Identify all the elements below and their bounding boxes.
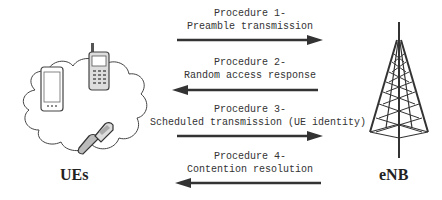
feature-phone-icon [88,42,110,92]
arrow-right-1 [177,35,323,45]
procedure-2-title: Procedure 2- [150,56,350,69]
procedure-4-description: Contention resolution [150,163,350,176]
procedure-1-text: Procedure 1- Preamble transmission [150,7,350,33]
random-access-diagram: UEs eNB Procedure 1- Preamble transmissi… [0,0,442,200]
cell-tower-icon [364,20,434,160]
procedure-4-title: Procedure 4- [150,150,350,163]
arrow-left-4 [175,178,321,188]
procedure-4-text: Procedure 4- Contention resolution [150,150,350,176]
procedure-2-text: Procedure 2- Random access response [150,56,350,82]
arrow-right-3 [177,131,323,141]
procedure-1-description: Preamble transmission [150,20,350,33]
procedure-3-description: Scheduled transmission (UE identity) [150,116,350,129]
procedure-3-text: Procedure 3- Scheduled transmission (UE … [150,103,350,129]
smartphone-icon [40,66,64,112]
procedure-1-title: Procedure 1- [150,7,350,20]
procedure-2-description: Random access response [150,69,350,82]
arrow-left-2 [172,85,318,95]
ues-label: UEs [60,166,88,184]
ue-group [15,50,155,160]
procedure-3-title: Procedure 3- [150,103,350,116]
flip-phone-icon [75,122,115,156]
enb-label: eNB [379,166,408,184]
